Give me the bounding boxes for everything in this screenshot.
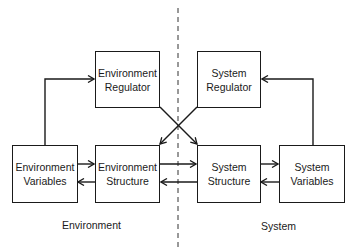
box-environment-structure: Environment Structure bbox=[95, 145, 160, 203]
box-label-line1: Environment bbox=[98, 66, 157, 80]
box-label-line2: Structure bbox=[106, 174, 149, 188]
box-label-line1: Environment bbox=[98, 160, 157, 174]
region-label-system: System bbox=[261, 220, 296, 232]
box-label-line2: Variables bbox=[291, 174, 334, 188]
box-label-line2: Structure bbox=[208, 174, 251, 188]
box-environment-regulator: Environment Regulator bbox=[95, 51, 160, 108]
box-system-regulator: System Regulator bbox=[197, 51, 261, 108]
box-system-variables: System Variables bbox=[279, 145, 345, 203]
arrow-sysvar-to-sysreg bbox=[262, 79, 313, 145]
box-label-line2: Regulator bbox=[105, 80, 151, 94]
region-label-environment: Environment bbox=[62, 219, 121, 231]
box-label-line1: System bbox=[294, 160, 329, 174]
box-label-line1: System bbox=[211, 66, 246, 80]
diagram-connections bbox=[0, 0, 353, 250]
box-system-structure: System Structure bbox=[197, 145, 261, 203]
box-environment-variables: Environment Variables bbox=[12, 145, 78, 203]
box-label-line1: Environment bbox=[16, 160, 75, 174]
box-label-line2: Variables bbox=[24, 174, 67, 188]
box-label-line1: System bbox=[211, 160, 246, 174]
box-label-line2: Regulator bbox=[206, 80, 252, 94]
arrow-envvar-to-envreg bbox=[45, 79, 94, 145]
